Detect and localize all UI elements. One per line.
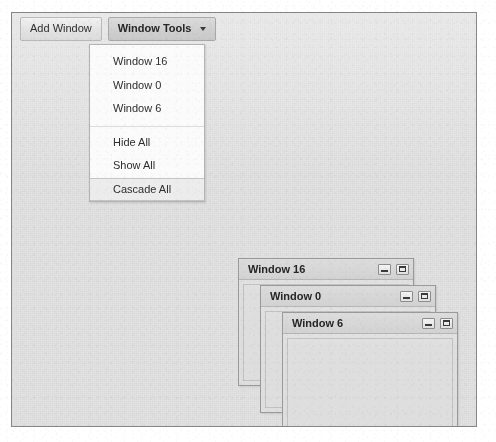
window-controls [422, 318, 453, 329]
menu-item-show-all[interactable]: Show All [90, 154, 204, 178]
window-titlebar[interactable]: Window 0 [261, 286, 435, 307]
window-tools-label: Window Tools [118, 23, 192, 34]
maximize-icon[interactable] [396, 264, 409, 275]
menu-item-hide-all[interactable]: Hide All [90, 131, 204, 155]
toolbar: Add Window Window Tools [12, 13, 476, 44]
window-controls [378, 264, 409, 275]
chevron-down-icon [200, 27, 206, 31]
window-tools-button[interactable]: Window Tools [108, 17, 217, 41]
window-controls [400, 291, 431, 302]
maximize-icon[interactable] [440, 318, 453, 329]
window-title: Window 6 [292, 317, 422, 329]
window-title: Window 16 [248, 263, 378, 275]
window-tools-dropdown-menu[interactable]: Window 16 Window 0 Window 6 Hide All Sho… [89, 44, 205, 202]
minimize-icon[interactable] [400, 291, 413, 302]
minimize-icon[interactable] [378, 264, 391, 275]
minimize-icon[interactable] [422, 318, 435, 329]
menu-item-cascade-all[interactable]: Cascade All [90, 178, 204, 202]
window-titlebar[interactable]: Window 16 [239, 259, 413, 280]
menu-item-window-0[interactable]: Window 0 [90, 74, 204, 98]
window-titlebar[interactable]: Window 6 [283, 313, 457, 334]
maximize-icon[interactable] [418, 291, 431, 302]
menu-separator [90, 126, 204, 127]
menu-item-window-6[interactable]: Window 6 [90, 97, 204, 121]
window-title: Window 0 [270, 290, 400, 302]
add-window-button[interactable]: Add Window [20, 17, 102, 41]
menu-item-window-16[interactable]: Window 16 [90, 50, 204, 74]
window-content-area [287, 338, 453, 427]
child-window-window-6[interactable]: Window 6 [282, 312, 458, 427]
desktop-panel: Add Window Window Tools Window 16 Window… [11, 12, 477, 427]
